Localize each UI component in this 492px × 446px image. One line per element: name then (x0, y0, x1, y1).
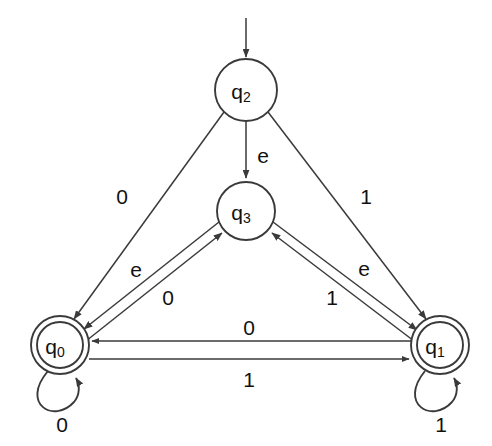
self-loop-q0 (37, 371, 78, 411)
edge-q0-q3 (86, 233, 222, 341)
state-label-q3-base: q (231, 201, 243, 224)
edge-q2-q0 (74, 112, 224, 319)
state-label-q0-base: q (45, 335, 57, 358)
state-label-q1-base: q (425, 335, 437, 358)
state-label-q1-sub: 1 (437, 344, 445, 360)
state-label-q2-sub: 2 (243, 89, 251, 105)
state-label-q0-sub: 0 (57, 344, 65, 360)
edge-label-q2-q0: 0 (116, 185, 128, 208)
edge-label-self-q1: 1 (435, 413, 447, 436)
edge-label-q3-q1: e (358, 257, 370, 280)
edge-q1-q3 (272, 233, 414, 341)
edge-label-q3-q0: e (130, 258, 142, 281)
edge-q2-q1 (268, 112, 426, 319)
edge-label-q0-q1: 1 (243, 368, 255, 391)
edge-label-q1-q0: 0 (243, 316, 255, 339)
state-label-q3-sub: 3 (243, 210, 251, 226)
edge-q3-q1 (273, 222, 417, 330)
edge-q3-q0 (84, 222, 219, 329)
self-loop-q1 (415, 371, 457, 411)
state-label-q2-base: q (231, 80, 243, 103)
fsm-canvas: q2 q3 q0 q1 0 1 e e 0 e 1 0 1 0 1 (0, 0, 492, 446)
edge-label-q2-q3: e (257, 144, 269, 167)
edge-label-q0-q3: 0 (162, 286, 174, 309)
edge-label-q1-q3: 1 (326, 286, 338, 309)
state-machine-diagram: q2 q3 q0 q1 0 1 e e 0 e 1 0 1 0 1 (0, 0, 492, 446)
edge-label-q2-q1: 1 (360, 185, 372, 208)
edge-label-self-q0: 0 (56, 413, 68, 436)
